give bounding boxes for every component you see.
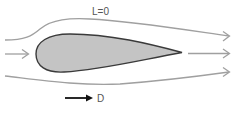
- lift-label: L=0: [92, 7, 109, 17]
- drag-label: D: [97, 94, 104, 104]
- streamline-bottom: [5, 68, 230, 85]
- arrowhead-icon: [86, 95, 93, 102]
- teardrop-body: [36, 34, 182, 72]
- flow-diagram: [0, 0, 237, 121]
- drag-arrow: [65, 95, 93, 102]
